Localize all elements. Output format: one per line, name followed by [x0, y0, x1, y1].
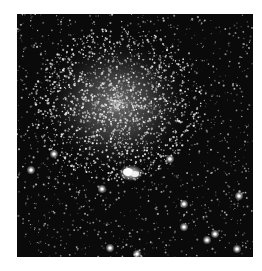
star-cluster-image: Grayscale astronomical image of a dense …: [17, 14, 253, 257]
starfield: [17, 14, 253, 257]
